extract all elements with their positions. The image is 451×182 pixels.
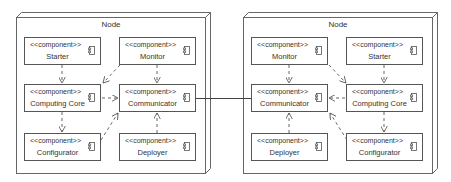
component-stereotype: <<component>> [352, 41, 403, 48]
component-right-configurator: <<component>>Configurator [346, 133, 423, 161]
component-name: Monitor [252, 52, 317, 61]
component-stereotype: <<component>> [125, 88, 176, 95]
component-name: Computing Core [25, 99, 90, 108]
component-right-computing-core: <<component>>Computing Core [346, 84, 423, 112]
component-right-monitor: <<component>>Monitor [251, 37, 328, 65]
component-name: Configurator [347, 148, 412, 157]
component-icon [410, 41, 417, 50]
component-icon [315, 41, 322, 50]
component-name: Starter [347, 52, 412, 61]
component-left-computing-core: <<component>>Computing Core [24, 84, 101, 112]
component-name: Configurator [25, 148, 90, 157]
component-left-communicator: <<component>>Communicator [119, 84, 196, 112]
component-icon [315, 88, 322, 97]
component-stereotype: <<component>> [30, 137, 81, 144]
component-name: Communicator [252, 99, 317, 108]
component-name: Computing Core [347, 99, 412, 108]
component-stereotype: <<component>> [30, 41, 81, 48]
component-icon [315, 137, 322, 146]
component-left-starter: <<component>>Starter [24, 37, 101, 65]
component-icon [88, 88, 95, 97]
component-stereotype: <<component>> [257, 88, 308, 95]
component-left-configurator: <<component>>Configurator [24, 133, 101, 161]
component-name: Deployer [252, 148, 317, 157]
component-icon [88, 41, 95, 50]
component-stereotype: <<component>> [352, 137, 403, 144]
component-icon [88, 137, 95, 146]
component-right-communicator: <<component>>Communicator [251, 84, 328, 112]
component-left-deployer: <<component>>Deployer [119, 133, 196, 161]
component-right-deployer: <<component>>Deployer [251, 133, 328, 161]
component-name: Monitor [120, 52, 185, 61]
component-left-monitor: <<component>>Monitor [119, 37, 196, 65]
component-stereotype: <<component>> [352, 88, 403, 95]
component-name: Communicator [120, 99, 185, 108]
component-icon [183, 137, 190, 146]
component-stereotype: <<component>> [125, 137, 176, 144]
component-stereotype: <<component>> [257, 137, 308, 144]
component-right-starter: <<component>>Starter [346, 37, 423, 65]
node-right-title: Node [308, 20, 368, 29]
component-icon [410, 137, 417, 146]
component-stereotype: <<component>> [125, 41, 176, 48]
component-icon [183, 41, 190, 50]
component-stereotype: <<component>> [257, 41, 308, 48]
component-name: Deployer [120, 148, 185, 157]
component-stereotype: <<component>> [30, 88, 81, 95]
component-name: Starter [25, 52, 90, 61]
node-left-title: Node [81, 20, 141, 29]
component-icon [183, 88, 190, 97]
component-icon [410, 88, 417, 97]
